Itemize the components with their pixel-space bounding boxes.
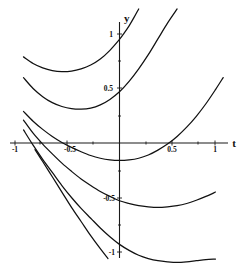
x-axis-label: t — [232, 137, 236, 149]
x-tick-label-pos1: 1 — [213, 145, 217, 154]
plot-canvas: -1 -0.5 0.5 1 1 0.5 -0.5 -1 t y — [0, 0, 249, 268]
y-tick-label-pos1: 1 — [109, 30, 113, 39]
x-tick-label-neg1: -1 — [12, 145, 18, 154]
y-tick-label-neg05: -0.5 — [103, 194, 115, 203]
plot-svg: -1 -0.5 0.5 1 1 0.5 -0.5 -1 t y — [0, 0, 249, 268]
y-axis-label: y — [124, 12, 130, 24]
y-tick-label-neg1: -1 — [109, 248, 115, 257]
y-tick-label-pos05: 0.5 — [104, 84, 114, 93]
x-tick-label-pos05: 0.5 — [167, 145, 177, 154]
curve-3 — [24, 78, 224, 161]
curve-1 — [24, 9, 139, 72]
x-tick-label-neg05: -0.5 — [64, 145, 76, 154]
curve-6 — [35, 150, 108, 259]
